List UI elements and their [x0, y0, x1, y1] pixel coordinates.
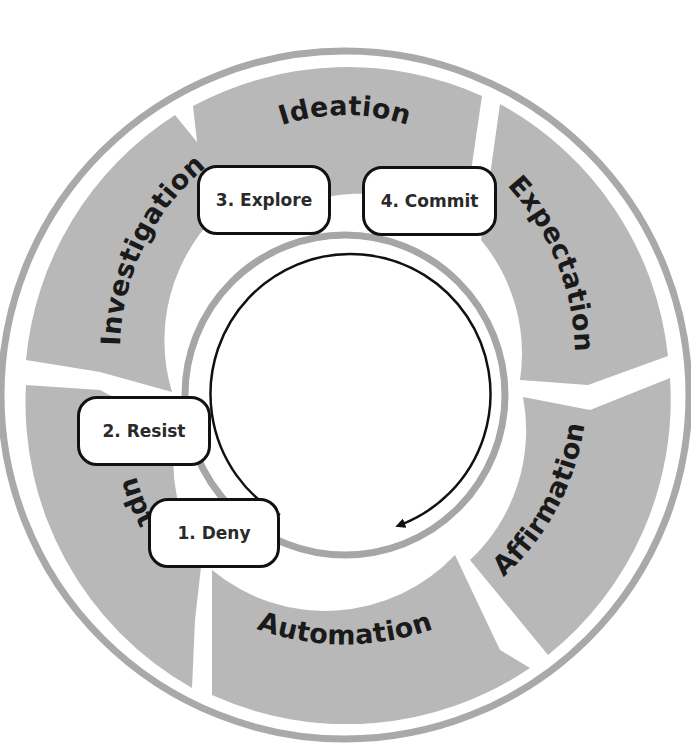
stage-commit: 4. Commit — [362, 166, 497, 236]
stage-resist-label: 2. Resist — [102, 421, 185, 441]
cycle-diagram: Ideation Expectation Affirmation Automat… — [0, 0, 691, 748]
stage-deny-label: 1. Deny — [177, 523, 250, 543]
stage-explore-label: 3. Explore — [216, 190, 312, 210]
stage-resist: 2. Resist — [77, 396, 211, 466]
stage-explore: 3. Explore — [197, 165, 331, 235]
stage-commit-label: 4. Commit — [381, 191, 479, 211]
stage-deny: 1. Deny — [148, 498, 280, 568]
